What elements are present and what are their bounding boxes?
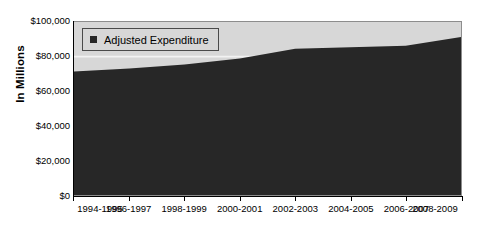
- x-axis-tick-mark: [73, 196, 74, 201]
- y-axis-line: [73, 21, 74, 197]
- y-axis-tick-label: $80,000: [6, 50, 70, 61]
- x-axis-tick-label: 2004-2005: [328, 203, 373, 214]
- x-axis-tick-label: 2000-2001: [217, 203, 262, 214]
- x-axis-line: [73, 196, 463, 197]
- x-axis-tick-label: 1998-1999: [161, 203, 206, 214]
- chart-legend: Adjusted Expenditure: [82, 28, 219, 51]
- x-axis-tick-mark: [129, 196, 130, 201]
- x-axis-tick-mark: [462, 196, 463, 201]
- legend-swatch-icon: [90, 36, 97, 43]
- x-axis-tick-mark: [295, 196, 296, 201]
- series-group: [74, 37, 461, 195]
- area-chart: In Millions $100,000$80,000$60,000$40,00…: [0, 0, 498, 236]
- y-axis-tick-label: $40,000: [6, 120, 70, 131]
- x-axis-tick-label: 2008-2009: [412, 203, 457, 214]
- x-axis-tick-label: 1996-1997: [106, 203, 151, 214]
- x-axis-tick-mark: [351, 196, 352, 201]
- x-axis-tick-label: 2002-2003: [273, 203, 318, 214]
- legend-item-label: Adjusted Expenditure: [104, 34, 209, 46]
- x-axis-tick-mark: [184, 196, 185, 201]
- y-axis-tick-label: $100,000: [6, 15, 70, 26]
- x-axis-tick-mark: [240, 196, 241, 201]
- x-axis-tick-mark: [406, 196, 407, 201]
- area-series-0: [74, 37, 461, 195]
- y-axis-tick-label: $20,000: [6, 155, 70, 166]
- y-axis-tick-label: $0: [6, 190, 70, 201]
- y-axis-tick-labels: $100,000$80,000$60,000$40,000$20,000$0: [0, 0, 70, 236]
- y-axis-tick-label: $60,000: [6, 85, 70, 96]
